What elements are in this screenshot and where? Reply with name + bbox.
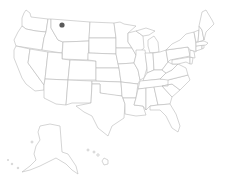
state-arizona[interactable] [44,79,68,105]
state-kansas[interactable] [96,68,121,82]
contiguous-us [14,10,214,136]
island [7,159,8,160]
state-florida[interactable] [150,104,180,132]
state-colorado[interactable] [68,60,96,80]
state-south-dakota[interactable] [89,38,116,54]
island [17,167,19,169]
state-arkansas[interactable] [121,82,138,98]
hawaii-island-big-island[interactable] [102,158,108,165]
state-delaware[interactable] [190,57,193,64]
us-map [0,0,234,186]
state-new-mexico[interactable] [66,80,92,105]
alaska [7,124,78,174]
hawaii [87,149,108,165]
hawaii-island-kauai[interactable] [87,149,89,151]
state-montana[interactable] [51,19,90,42]
hawaii-island-oahu[interactable] [93,151,95,153]
state-alaska[interactable] [22,124,78,174]
island [31,141,33,143]
location-marker[interactable] [59,22,64,27]
hawaii-island-maui[interactable] [97,154,99,156]
state-north-dakota[interactable] [89,22,116,38]
island [11,163,13,165]
state-wyoming[interactable] [62,41,89,60]
state-iowa[interactable] [116,48,136,64]
